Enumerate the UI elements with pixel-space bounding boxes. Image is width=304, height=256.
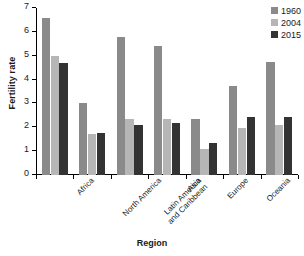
legend-swatch-icon <box>271 7 278 14</box>
y-tick: 7 <box>32 7 36 8</box>
legend-item[interactable]: 1960 <box>271 5 301 16</box>
bar-group <box>117 8 143 175</box>
plot-area: 01234567 <box>36 8 298 175</box>
legend-swatch-icon <box>271 31 278 38</box>
x-tick-label-line: Europe <box>226 176 251 201</box>
y-tick-label: 3 <box>24 96 29 107</box>
y-tick: 3 <box>32 102 36 103</box>
legend-label: 2015 <box>281 30 301 40</box>
y-tick: 1 <box>32 150 36 151</box>
bar <box>163 119 171 175</box>
y-axis-title: Fertility rate <box>7 43 17 123</box>
bar <box>200 149 208 175</box>
x-tick-label: Oceania <box>265 176 292 203</box>
legend: 196020042015 <box>271 5 301 40</box>
y-tick-label: 4 <box>24 73 29 84</box>
y-tick: 4 <box>32 79 36 80</box>
y-tick-label: 5 <box>24 49 29 60</box>
y-tick: 5 <box>32 55 36 56</box>
bar-group <box>154 8 180 175</box>
bar <box>88 134 96 175</box>
y-axis-line <box>36 8 37 175</box>
bar <box>266 62 274 175</box>
bar-group <box>42 8 68 175</box>
y-tick-label: 1 <box>24 144 29 155</box>
bar <box>238 128 246 175</box>
bar <box>247 117 255 175</box>
bar <box>154 46 162 175</box>
bar <box>284 117 292 175</box>
legend-label: 2004 <box>281 18 301 28</box>
bar <box>117 37 125 175</box>
legend-label: 1960 <box>281 6 301 16</box>
bar <box>51 56 59 175</box>
y-tick-label: 7 <box>24 1 29 12</box>
bar <box>42 18 50 175</box>
legend-swatch-icon <box>271 19 278 26</box>
y-tick: 2 <box>32 126 36 127</box>
fertility-rate-bar-chart: Fertility rate 01234567 AfricaNorth Amer… <box>0 0 304 256</box>
bar <box>172 123 180 175</box>
bar <box>59 63 67 175</box>
legend-item[interactable]: 2015 <box>271 29 301 40</box>
x-tick-label-line: North America <box>121 176 163 218</box>
bar <box>191 119 199 175</box>
x-tick-label-line: Oceania <box>265 176 292 203</box>
x-axis-title: Region <box>0 238 304 248</box>
x-tick-label: Africa <box>75 176 96 197</box>
bar <box>229 86 237 175</box>
x-axis-tick-labels: AfricaNorth AmericaLatin Americaand Cari… <box>36 176 298 234</box>
y-tick: 6 <box>32 31 36 32</box>
bar-group <box>229 8 255 175</box>
y-tick-label: 0 <box>24 168 29 179</box>
bar-group <box>79 8 105 175</box>
x-tick-label-line: Africa <box>75 176 96 197</box>
bar <box>134 125 142 175</box>
y-tick-label: 6 <box>24 25 29 36</box>
x-tick-label: North America <box>121 176 163 218</box>
x-tick <box>298 175 299 179</box>
bar <box>97 133 105 175</box>
bar <box>209 143 217 175</box>
bar <box>275 125 283 175</box>
legend-item[interactable]: 2004 <box>271 17 301 28</box>
x-tick-label: Europe <box>226 176 251 201</box>
bar-group <box>191 8 217 175</box>
bar <box>125 119 133 175</box>
bar <box>79 103 87 175</box>
y-tick-label: 2 <box>24 120 29 131</box>
